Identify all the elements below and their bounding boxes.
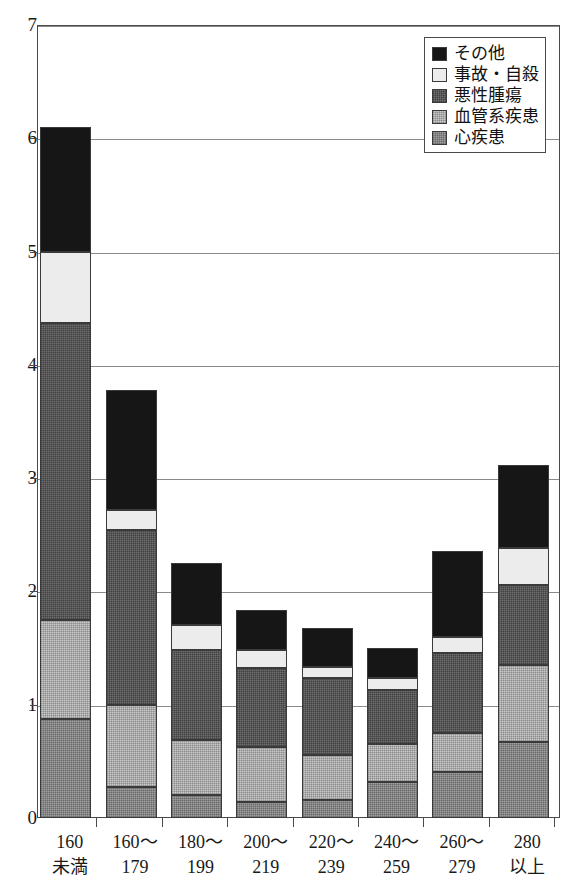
bar-group[interactable] [106,25,157,818]
bar-segment-cancer[interactable] [236,668,287,746]
x-tick-label-line: 160 [37,830,102,855]
legend-item[interactable]: その他 [432,43,541,64]
bar-segment-heart[interactable] [236,802,287,818]
bar-segment-other[interactable] [367,648,418,677]
x-tick-label: 180〜199 [168,830,233,880]
bar-segment-cancer[interactable] [367,690,418,744]
x-tick-label-line: 260〜 [429,830,494,855]
y-tick-mark [30,591,37,592]
x-tick-mark [554,818,555,827]
x-tick-label-line: 259 [364,855,429,880]
bar-segment-accident[interactable] [106,510,157,530]
x-tick-mark [358,818,359,827]
bar-segment-cancer[interactable] [302,678,353,755]
x-tick-label-line: 280 [495,830,560,855]
bar-segment-cancer[interactable] [40,323,91,620]
stacked-bar-chart: 01234567 160未満160〜179180〜199200〜219220〜2… [0,0,578,890]
legend: その他事故・自殺悪性腫瘍血管系疾患心疾患 [424,37,546,153]
legend-label: 心疾患 [454,129,505,146]
x-tick-label-line: 220〜 [299,830,364,855]
x-tick-label: 160未満 [37,830,102,880]
y-tick-mark [30,252,37,253]
x-tick-label-line: 240〜 [364,830,429,855]
x-tick-label-line: 279 [429,855,494,880]
legend-label: 悪性腫瘍 [454,87,522,104]
bar-segment-accident[interactable] [432,637,483,653]
x-tick-label-line: 239 [299,855,364,880]
bar-segment-heart[interactable] [367,782,418,818]
x-tick-label: 260〜279 [429,830,494,880]
legend-swatch-other-icon [432,47,447,61]
bar-segment-heart[interactable] [106,787,157,818]
bar-segment-vascular[interactable] [432,733,483,772]
x-tick-label-line: 219 [233,855,298,880]
bar-segment-accident[interactable] [171,625,222,650]
bar-segment-vascular[interactable] [236,747,287,803]
bar-segment-vascular[interactable] [302,755,353,800]
bar-segment-accident[interactable] [367,678,418,690]
bar-segment-vascular[interactable] [40,620,91,720]
x-tick-label: 220〜239 [299,830,364,880]
bar-segment-vascular[interactable] [498,665,549,742]
x-tick-label: 240〜259 [364,830,429,880]
bar-segment-vascular[interactable] [367,744,418,781]
bar-segment-cancer[interactable] [106,530,157,704]
bar-segment-heart[interactable] [171,795,222,818]
bar-segment-cancer[interactable] [171,650,222,739]
legend-item[interactable]: 心疾患 [432,127,541,148]
x-tick-label-line: 179 [102,855,167,880]
legend-swatch-accident-icon [432,68,447,82]
bar-segment-heart[interactable] [302,800,353,818]
x-tick-label: 280以上 [495,830,560,880]
bar-group[interactable] [40,25,91,818]
bar-segment-other[interactable] [171,563,222,625]
bar-segment-heart[interactable] [432,772,483,818]
x-tick-label-line: 未満 [37,855,102,880]
bar-segment-cancer[interactable] [432,653,483,733]
bar-segment-other[interactable] [432,551,483,637]
legend-item[interactable]: 血管系疾患 [432,106,541,127]
x-tick-mark [423,818,424,827]
bar-segment-heart[interactable] [40,719,91,818]
bar-segment-accident[interactable] [236,650,287,668]
bar-segment-accident[interactable] [302,667,353,677]
x-tick-label-line: 160〜 [102,830,167,855]
x-tick-label: 160〜179 [102,830,167,880]
x-tick-mark [162,818,163,827]
y-tick-label: 7 [7,15,37,34]
bar-segment-other[interactable] [302,628,353,668]
bar-group[interactable] [367,25,418,818]
x-tick-mark [489,818,490,827]
bar-segment-vascular[interactable] [171,740,222,796]
legend-swatch-cancer-icon [432,89,447,103]
bar-group[interactable] [236,25,287,818]
bar-segment-heart[interactable] [498,742,549,818]
x-tick-label-line: 以上 [495,855,560,880]
legend-item[interactable]: 事故・自殺 [432,64,541,85]
bar-segment-vascular[interactable] [106,705,157,788]
legend-label: 事故・自殺 [454,66,539,83]
y-tick-mark [30,478,37,479]
bar-segment-cancer[interactable] [498,585,549,665]
x-tick-label-line: 199 [168,855,233,880]
x-tick-mark [227,818,228,827]
legend-item[interactable]: 悪性腫瘍 [432,85,541,106]
bar-segment-other[interactable] [40,127,91,252]
legend-label: 血管系疾患 [454,108,539,125]
bar-group[interactable] [302,25,353,818]
bar-segment-other[interactable] [236,610,287,651]
bar-segment-accident[interactable] [498,548,549,584]
y-tick-mark [30,138,37,139]
x-tick-mark [293,818,294,827]
bar-segment-other[interactable] [498,465,549,549]
bar-group[interactable] [171,25,222,818]
bar-segment-other[interactable] [106,390,157,510]
x-tick-label-line: 180〜 [168,830,233,855]
x-tick-label-line: 200〜 [233,830,298,855]
y-tick-mark [30,365,37,366]
legend-label: その他 [454,45,505,62]
bar-segment-accident[interactable] [40,252,91,323]
y-tick-label: 0 [7,808,37,827]
x-tick-mark [96,818,97,827]
legend-swatch-heart-icon [432,131,447,145]
